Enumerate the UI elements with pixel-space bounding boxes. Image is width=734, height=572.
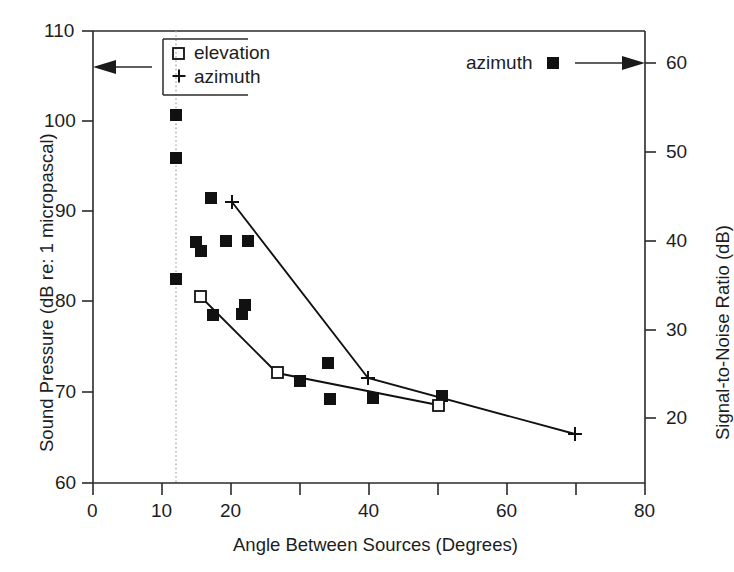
data-point: [170, 109, 182, 121]
series-elevation-open-squares: [195, 291, 444, 411]
data-point: [324, 393, 336, 405]
y-right-tick-50: 50: [666, 141, 687, 163]
data-point: [294, 375, 306, 387]
data-point: [195, 245, 207, 257]
x-tick-10: 10: [151, 500, 172, 522]
data-point: [220, 235, 232, 247]
y-left-tick-70: 70: [55, 381, 76, 403]
x-tick-20: 20: [220, 500, 241, 522]
x-tick-40: 40: [358, 500, 379, 522]
y-left-tick-110: 110: [44, 20, 74, 42]
y-left-tick-60: 60: [55, 472, 76, 494]
data-point: [170, 152, 182, 164]
data-point: [195, 291, 206, 302]
data-point: [367, 392, 379, 404]
y-left-tick-80: 80: [55, 290, 76, 312]
legend-label-elevation: elevation: [194, 42, 270, 64]
data-point: [433, 400, 444, 411]
x-axis-title: Angle Between Sources (Degrees): [233, 534, 518, 556]
y-left-tick-90: 90: [55, 200, 76, 222]
data-point: [272, 367, 283, 378]
annotation-marker-filled-square: [547, 57, 559, 69]
y-left-ticks: [82, 31, 93, 483]
data-point: [242, 235, 254, 247]
y-right-tick-30: 30: [666, 319, 687, 341]
legend-marker-plus-icon: [173, 70, 186, 83]
data-point: [170, 273, 182, 285]
y-right-tick-20: 20: [666, 407, 687, 429]
annotation-label-azimuth: azimuth: [466, 52, 533, 74]
y-left-tick-100: 100: [44, 110, 76, 132]
y-right-tick-60: 60: [666, 52, 687, 74]
y-left-axis-title: Sound Pressure (dB re: 1 micropascal): [36, 133, 58, 452]
x-tick-80: 80: [634, 500, 655, 522]
data-point: [236, 308, 248, 320]
data-point: [207, 309, 219, 321]
y-right-axis-title: Signal-to-Noise Ratio (dB): [712, 225, 734, 440]
data-point: [322, 357, 334, 369]
series-azimuth-plus-markers: [225, 195, 582, 441]
data-point: [205, 192, 217, 204]
x-ticks: [93, 483, 645, 495]
y-right-ticks: [645, 63, 656, 418]
x-tick-0: 0: [87, 500, 98, 522]
series-azimuth-filled-squares: [170, 109, 448, 405]
x-tick-60: 60: [496, 500, 517, 522]
legend-marker-open-square: [173, 48, 184, 59]
y-right-tick-40: 40: [666, 230, 687, 252]
azimuth-fit-line: [232, 202, 575, 434]
left-axis-arrow-icon: [93, 60, 152, 74]
right-axis-arrow-icon: [575, 56, 645, 70]
legend-label-azimuth: azimuth: [194, 66, 261, 88]
